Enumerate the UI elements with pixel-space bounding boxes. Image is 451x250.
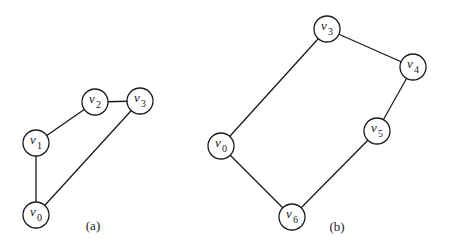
edge-v5-v6 <box>292 131 377 217</box>
node-label: v <box>30 132 36 147</box>
node-subscript: 2 <box>96 99 101 110</box>
node-label: v <box>371 120 377 135</box>
node-v6: v6 <box>279 204 305 230</box>
node-subscript: 1 <box>37 140 42 151</box>
node-label: v <box>89 91 95 106</box>
node-subscript: 6 <box>293 214 298 225</box>
node-label: v <box>215 135 221 150</box>
node-subscript: 0 <box>222 143 227 154</box>
edge-v3-v4 <box>327 29 413 67</box>
node-subscript: 3 <box>328 26 333 37</box>
edge-v3-v0 <box>36 101 140 215</box>
node-label: v <box>134 90 140 105</box>
node-label: v <box>286 206 292 221</box>
graph-a: v0v1v2v3(a) <box>23 88 153 233</box>
node-v0: v0 <box>208 133 234 159</box>
node-label: v <box>30 204 36 219</box>
node-subscript: 5 <box>378 128 383 139</box>
node-subscript: 4 <box>414 64 419 75</box>
node-v0: v0 <box>23 202 49 228</box>
node-v2: v2 <box>82 89 108 115</box>
node-v5: v5 <box>364 118 390 144</box>
graph-caption: (b) <box>329 219 344 234</box>
node-v3: v3 <box>127 88 153 114</box>
node-v1: v1 <box>23 130 49 156</box>
graph-b: v3v4v5v0v6(b) <box>208 16 426 234</box>
node-label: v <box>321 18 327 33</box>
node-subscript: 0 <box>37 212 42 223</box>
node-v4: v4 <box>400 54 426 80</box>
graph-diagram: v0v1v2v3(a)v3v4v5v0v6(b) <box>0 0 451 250</box>
node-subscript: 3 <box>141 98 146 109</box>
edge-v0-v3 <box>221 29 327 146</box>
edge-v6-v0 <box>221 146 292 217</box>
node-v3: v3 <box>314 16 340 42</box>
node-label: v <box>407 56 413 71</box>
graph-caption: (a) <box>86 218 100 233</box>
